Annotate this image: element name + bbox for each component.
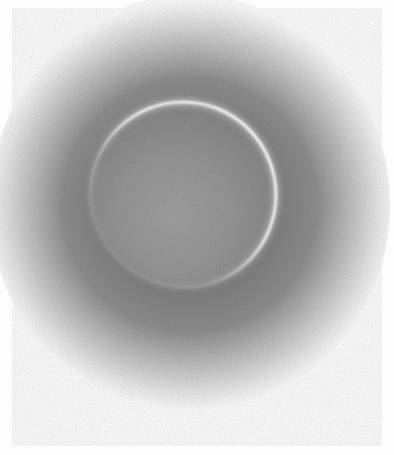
image-frame	[0, 0, 394, 455]
eclipse-illustration	[0, 0, 394, 455]
